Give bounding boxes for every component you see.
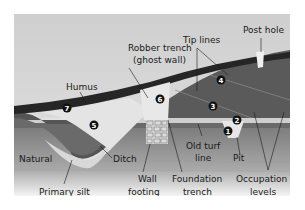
marker-3: 3 bbox=[209, 102, 218, 111]
label-natural: Natural bbox=[19, 154, 52, 164]
marker-4: 4 bbox=[217, 76, 226, 85]
label-primary-silt: Primary silt bbox=[39, 187, 90, 196]
label-humus: Humus bbox=[66, 82, 98, 92]
wall-footing bbox=[146, 120, 168, 144]
svg-text:4: 4 bbox=[219, 77, 224, 85]
marker-5: 5 bbox=[90, 121, 99, 130]
label-line: line bbox=[195, 153, 212, 163]
label-foundation: Foundation bbox=[172, 174, 222, 184]
svg-text:1: 1 bbox=[226, 128, 231, 136]
label-ditch: Ditch bbox=[113, 154, 137, 164]
label-footing: footing bbox=[128, 187, 160, 196]
label-levels: levels bbox=[250, 187, 276, 196]
label-wall: Wall bbox=[138, 174, 157, 184]
marker-2: 2 bbox=[233, 116, 242, 125]
label-tip-lines: Tip lines bbox=[182, 35, 221, 45]
svg-text:5: 5 bbox=[92, 122, 97, 130]
label-occupation: Occupation bbox=[236, 174, 287, 184]
svg-text:3: 3 bbox=[211, 103, 216, 111]
label-post-hole: Post hole bbox=[243, 25, 284, 35]
label-ghost-wall: (ghost wall) bbox=[133, 55, 186, 65]
marker-6: 6 bbox=[156, 95, 165, 104]
label-trench: trench bbox=[183, 187, 212, 196]
marker-1: 1 bbox=[224, 127, 233, 136]
marker-7: 7 bbox=[63, 104, 72, 113]
label-old-turf: Old turf bbox=[186, 141, 221, 151]
svg-text:7: 7 bbox=[65, 105, 70, 113]
stratigraphy-diagram: Robber trench (ghost wall) Tip lines Pos… bbox=[14, 14, 290, 196]
svg-text:6: 6 bbox=[158, 96, 163, 104]
label-pit: Pit bbox=[233, 153, 245, 163]
svg-text:2: 2 bbox=[235, 117, 240, 125]
